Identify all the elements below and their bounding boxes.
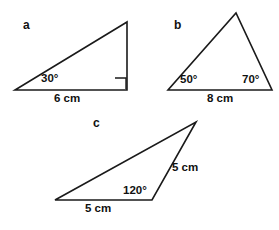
triangle-b-base-length: 8 cm: [207, 93, 233, 105]
triangle-b-angle-50: 50°: [180, 74, 197, 86]
triangle-c-right-side-length: 5 cm: [172, 162, 198, 174]
triangle-a-base-length: 6 cm: [54, 93, 80, 105]
triangle-a-shape: [15, 22, 127, 90]
right-angle-marker-a: [115, 78, 126, 89]
triangle-c-angle-120: 120°: [123, 185, 147, 197]
triangle-c-base-length: 5 cm: [85, 203, 111, 215]
geometry-figure: a 30° 6 cm b 50° 70° 8 cm c 120° 5 cm 5 …: [0, 0, 279, 230]
triangle-c-letter: c: [93, 117, 100, 129]
triangle-b-letter: b: [174, 19, 181, 31]
triangle-a-letter: a: [23, 19, 30, 31]
triangle-a-angle-30: 30°: [41, 73, 58, 85]
triangle-b-angle-70: 70°: [242, 74, 259, 86]
